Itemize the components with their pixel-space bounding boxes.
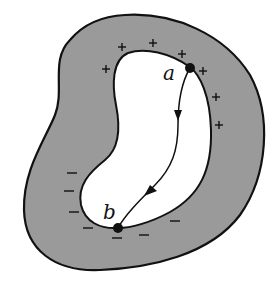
point-a [185,63,195,73]
point-a-label: a [163,61,175,85]
point-b-label: b [103,200,116,224]
conductor-cavity-diagram: a b [0,0,277,287]
point-b [113,223,123,233]
